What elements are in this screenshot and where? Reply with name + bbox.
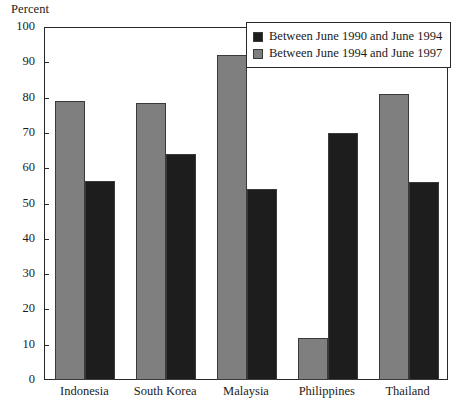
bar-series-1994-1997[interactable] xyxy=(379,94,409,380)
bar-group xyxy=(136,27,196,380)
bar-group xyxy=(298,27,358,380)
y-axis-tick-label: 50 xyxy=(23,196,36,211)
bar-series-1994-1997[interactable] xyxy=(136,103,166,380)
y-axis-tick-label: 10 xyxy=(23,337,36,352)
y-axis-title: Percent xyxy=(11,2,49,17)
y-axis-tick-label: 30 xyxy=(23,266,36,281)
y-axis-tick-label: 100 xyxy=(16,19,35,34)
bar-group xyxy=(217,27,277,380)
bar-series-1990-1994[interactable] xyxy=(328,133,358,380)
legend-swatch-icon xyxy=(253,49,263,59)
legend-item-late[interactable]: Between June 1994 and June 1997 xyxy=(253,45,442,62)
legend: Between June 1990 and June 1994 Between … xyxy=(246,22,451,68)
legend-label: Between June 1990 and June 1994 xyxy=(269,29,442,44)
bar-chart: Percent 0102030405060708090100 Indonesia… xyxy=(0,0,458,413)
bar-group xyxy=(379,27,439,380)
legend-swatch-icon xyxy=(253,32,263,42)
bar-series-1994-1997[interactable] xyxy=(55,101,85,380)
bar-series-1994-1997[interactable] xyxy=(217,55,247,380)
legend-label: Between June 1994 and June 1997 xyxy=(269,46,442,61)
x-axis-label: Thailand xyxy=(348,384,458,399)
bar-group xyxy=(55,27,115,380)
y-axis-tick-label: 20 xyxy=(23,301,36,316)
bar-series-1990-1994[interactable] xyxy=(409,182,439,380)
y-axis-tick-label: 90 xyxy=(23,54,36,69)
y-axis-tick-label: 60 xyxy=(23,160,36,175)
bar-series-1990-1994[interactable] xyxy=(166,154,196,380)
bar-series-1990-1994[interactable] xyxy=(85,181,115,380)
bar-series-1990-1994[interactable] xyxy=(247,189,277,380)
bars-layer xyxy=(44,27,448,380)
y-axis-tick-label: 80 xyxy=(23,90,36,105)
y-axis-tick-label: 40 xyxy=(23,231,36,246)
legend-item-early[interactable]: Between June 1990 and June 1994 xyxy=(253,28,442,45)
y-axis-tick-label: 70 xyxy=(23,125,36,140)
x-axis: IndonesiaSouth KoreaMalaysiaPhilippinesT… xyxy=(44,382,448,410)
bar-series-1994-1997[interactable] xyxy=(298,338,328,380)
